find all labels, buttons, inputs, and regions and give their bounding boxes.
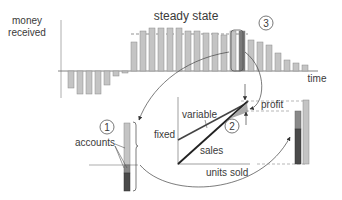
x-axis-label: time — [308, 73, 327, 84]
bar — [302, 65, 308, 71]
bar — [122, 71, 128, 73]
accounts-label: accounts — [75, 137, 115, 148]
accounts-bar-top — [124, 123, 130, 165]
bar — [194, 31, 200, 71]
bar — [284, 60, 290, 71]
cost-bar-mid — [295, 111, 301, 129]
bar — [167, 28, 173, 71]
bar — [131, 42, 137, 71]
y-axis-label-line2: received — [8, 27, 46, 38]
bar — [95, 71, 101, 94]
bar — [257, 42, 263, 71]
bar — [275, 53, 281, 71]
accounts-bar-mid — [124, 165, 130, 173]
bar — [212, 33, 218, 71]
y-axis-label-line1: money — [12, 15, 42, 26]
units-sold-label: units sold — [206, 167, 248, 178]
cost-bar-dark — [295, 129, 301, 164]
bar — [140, 31, 146, 71]
bar — [266, 45, 272, 71]
bar — [176, 28, 182, 71]
accounts-brace — [133, 122, 138, 191]
marker-3-label: 3 — [263, 18, 269, 29]
bar-series — [68, 28, 308, 94]
bar — [203, 33, 209, 71]
bar — [68, 71, 74, 88]
marker-1-label: 1 — [104, 122, 110, 133]
accounts-pointer-1 — [115, 144, 125, 148]
bar — [86, 71, 92, 94]
bar — [77, 71, 83, 94]
bar — [113, 71, 119, 76]
bar — [149, 28, 155, 71]
sales-label: sales — [200, 145, 223, 156]
bar — [158, 28, 164, 71]
business-cycle-diagram: money received steady state time 3 1 acc… — [0, 0, 342, 200]
highlighted-bar — [239, 31, 245, 71]
marker-2-label: 2 — [229, 121, 235, 132]
sales-bar — [303, 100, 309, 164]
steady-state-label: steady state — [154, 9, 219, 23]
bar — [104, 71, 110, 85]
bar — [293, 63, 299, 71]
variable-label: variable — [182, 109, 217, 120]
fixed-label: fixed — [154, 129, 175, 140]
profit-label: profit — [261, 99, 283, 110]
accounts-bar-dark — [124, 173, 130, 191]
bar — [185, 31, 191, 71]
